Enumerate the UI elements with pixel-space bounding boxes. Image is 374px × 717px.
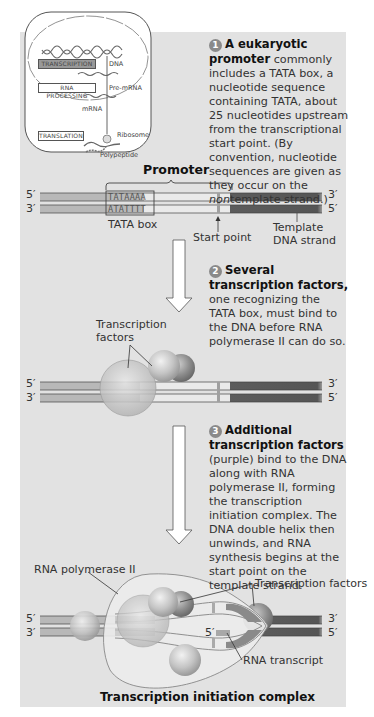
strand-3prime-right-label: 3′ xyxy=(328,188,338,201)
inset-dna-label: DNA xyxy=(109,60,123,68)
step-1-number: 1 xyxy=(209,39,222,52)
step-1-text: 1A eukaryotic promoter commonly includes… xyxy=(209,37,349,207)
tf-label-line1: Transcription xyxy=(96,318,167,331)
down-arrow-2 xyxy=(166,426,192,544)
step-2-text: 2Several transcription factors, one reco… xyxy=(209,263,349,349)
rna-polymerase-ii-label: RNA polymerase II xyxy=(34,563,135,576)
tata-sequence-bottom: ATATTTT xyxy=(108,204,146,214)
step-3-title: Additional transcription factors xyxy=(209,423,344,452)
d3-transcription-factors-label: Transcription factors xyxy=(255,577,367,590)
d2-5prime-label: 5′ xyxy=(26,377,36,390)
step-1-body: commonly includes a TATA box, a nucleoti… xyxy=(209,53,348,192)
template-label-line1: Template xyxy=(273,221,336,234)
d2-5prime-right-label: 5′ xyxy=(328,391,338,404)
inset-polypeptide-label: Polypeptide xyxy=(100,151,138,159)
rna-transcript-label: RNA transcript xyxy=(243,654,323,667)
d3-3prime-right-label: 3′ xyxy=(328,612,338,625)
inset-mrna-label: mRNA xyxy=(82,105,102,113)
start-point-label: Start point xyxy=(193,231,251,244)
step-2-title: Several transcription factors, xyxy=(209,263,348,292)
tata-sequence-top: TATAAAA xyxy=(108,192,146,202)
inset-rna-processing-label: RNA PROCESSING xyxy=(46,84,87,99)
strand-5prime-right-label: 5′ xyxy=(328,202,338,215)
step-3-number: 3 xyxy=(209,425,222,438)
template-dna-strand-label: Template DNA strand xyxy=(273,221,336,247)
template-label-line2: DNA strand xyxy=(273,234,336,247)
d3-5prime-right-label: 5′ xyxy=(328,626,338,639)
strand-3prime-label: 3′ xyxy=(26,202,36,215)
rna-transcript-5prime-label: 5′ xyxy=(205,626,215,639)
inset-translation-label: TRANSLATION xyxy=(39,132,83,139)
tf-binding-dna xyxy=(40,345,322,416)
down-arrow-1 xyxy=(166,240,192,312)
inset-ribosome-label: Ribosome xyxy=(117,131,149,139)
d2-3prime-right-label: 3′ xyxy=(328,377,338,390)
inset-transcription-label: TRANSCRIPTION xyxy=(42,60,93,67)
inset-box-transcription: TRANSCRIPTION xyxy=(38,59,96,69)
promoter-label: Promoter xyxy=(143,162,209,177)
step-3-body: (purple) bind to the DNA along with RNA … xyxy=(209,453,346,592)
step-2-number: 2 xyxy=(209,265,222,278)
tata-box-label: TATA box xyxy=(108,218,157,231)
initiation-complex-caption: Transcription initiation complex xyxy=(100,690,315,704)
step-2-body: one recognizing the TATA box, must bind … xyxy=(209,293,346,348)
d3-3prime-label: 3′ xyxy=(26,626,36,639)
step-1-italic: non xyxy=(209,193,230,206)
step-1-body-end: template strand.) xyxy=(230,193,328,206)
strand-5prime-label: 5′ xyxy=(26,188,36,201)
d2-3prime-label: 3′ xyxy=(26,391,36,404)
step-3-text: 3Additional transcription factors (purpl… xyxy=(209,423,349,593)
tf-label-line2: factors xyxy=(96,331,167,344)
inset-pre-mrna-label: Pre-mRNA xyxy=(109,84,142,92)
inset-box-rna-processing: RNA PROCESSING xyxy=(38,83,96,93)
d3-5prime-label: 5′ xyxy=(26,612,36,625)
inset-box-translation: TRANSLATION xyxy=(38,131,84,141)
transcription-factors-label: Transcription factors xyxy=(96,318,167,344)
